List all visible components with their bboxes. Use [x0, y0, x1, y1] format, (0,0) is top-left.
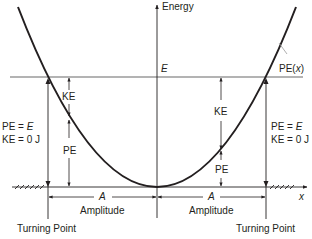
right-annotation-line1: PE = E: [271, 121, 302, 132]
right-turning-point-label: Turning Point: [236, 223, 295, 234]
curve-label-leader: [279, 43, 287, 54]
total-energy-label: E: [161, 63, 168, 74]
right-amplitude-label: Amplitude: [189, 205, 233, 216]
right-annotation-line2: KE = 0 J: [271, 134, 309, 145]
right-pe-label: PE: [215, 164, 228, 175]
left-annotation-var: E: [27, 121, 34, 132]
left-ke-label: KE: [62, 91, 75, 102]
right-baseline-marker-icon: [264, 181, 269, 187]
right-amplitude-symbol: A: [208, 191, 215, 202]
left-baseline-marker-icon: [46, 181, 51, 187]
energy-axis-label: Energy: [162, 1, 194, 12]
x-axis-label: x: [299, 191, 304, 202]
left-amplitude-symbol: A: [99, 191, 106, 202]
left-annotation-prefix: PE =: [2, 121, 27, 132]
right-ke-label: KE: [214, 106, 227, 117]
left-annotation-line1: PE = E: [2, 121, 33, 132]
energy-diagram-canvas: [0, 0, 312, 239]
left-amplitude-label: Amplitude: [80, 205, 124, 216]
curve-label-prefix: PE(: [279, 63, 296, 74]
right-annotation-prefix: PE =: [271, 121, 296, 132]
curve-label-suffix: ): [301, 63, 304, 74]
left-annotation-line2: KE = 0 J: [2, 134, 40, 145]
left-turning-point-label: Turning Point: [17, 223, 76, 234]
curve-label: PE(x): [279, 63, 304, 74]
left-pe-label: PE: [63, 145, 76, 156]
right-annotation-var: E: [296, 121, 303, 132]
